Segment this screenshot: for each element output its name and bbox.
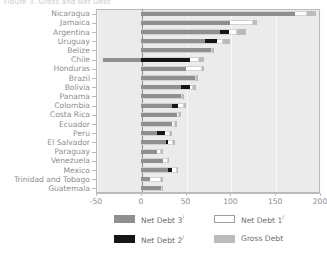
category-label-costa-rica: Costa Rica [50,110,90,119]
bar-net3-colombia [141,104,172,108]
x-axis-tick [320,193,321,196]
gridline [97,10,98,192]
legend-item-net3[interactable]: Net Debt 3/ [114,214,184,225]
gridline [231,10,232,192]
category-label-jamaica: Jamaica [60,18,90,27]
category-tick [92,124,96,125]
legend-superscript-net3: / [182,214,184,220]
category-label-chile: Chile [71,55,90,64]
category-tick [92,152,96,153]
category-tick [92,179,96,180]
category-tick [92,188,96,189]
legend-item-net2[interactable]: Net Debt 2/ [114,234,184,245]
category-label-colombia: Colombia [54,101,90,110]
category-tick [92,69,96,70]
category-tick [92,78,96,79]
category-tick [92,41,96,42]
bar-net3-brazil [141,76,195,80]
bar-net3-panama [141,94,181,98]
category-label-trinidad-and-tobago: Trinidad and Tobago [14,175,90,184]
legend-item-net1[interactable]: Net Debt 1/ [214,214,284,225]
bar-net3-uruguay [141,39,206,43]
category-tick [92,133,96,134]
category-label-ecuador: Ecuador [59,120,90,129]
category-label-brazil: Brazil [69,74,90,83]
legend-superscript-net1: / [282,214,284,220]
category-tick [92,87,96,88]
legend-swatch-net2-icon [114,235,135,243]
legend-label-gross: Gross Debt [241,234,283,243]
bar-net3-bolivia [141,85,181,89]
x-axis-tick [96,193,97,196]
plot-area [96,9,320,193]
bar-net3-jamaica [141,21,231,25]
zero-line [142,10,143,192]
bar-net3-chile [103,58,141,62]
bar-net3-paraguay [141,150,157,154]
category-tick [92,115,96,116]
category-label-peru: Peru [73,129,90,138]
x-axis-label-200: 200 [313,197,327,206]
x-axis-label-0: 0 [138,197,143,206]
legend-label-net2: Net Debt 2/ [141,234,184,245]
legend-label-net1: Net Debt 1/ [241,214,284,225]
category-tick [92,23,96,24]
bar-net3-mexico [141,168,168,172]
legend-item-gross[interactable]: Gross Debt [214,234,283,243]
chart-title-fragment: Figure 3. Gross and Net Debt [4,0,111,4]
bar-net3-el-salvador [141,140,166,144]
legend-swatch-gross-icon [214,235,235,243]
bar-net3-costa-rica [141,113,177,117]
x-axis-tick [141,193,142,196]
category-tick [92,32,96,33]
category-label-uruguay: Uruguay [58,37,90,46]
bar-net3-nicaragua [141,12,295,16]
category-label-honduras: Honduras [53,64,90,73]
category-tick [92,14,96,15]
category-label-bolivia: Bolivia [65,83,90,92]
legend-swatch-net3-icon [114,215,135,223]
category-label-el-salvador: El Salvador [47,138,90,147]
category-axis-labels: NicaraguaJamaicaArgentinaUruguayBelizeCh… [0,9,93,193]
category-tick [92,50,96,51]
gridline [276,10,277,192]
bar-net3-honduras [141,67,186,71]
x-axis-tick [230,193,231,196]
category-label-panama: Panama [60,92,90,101]
legend-superscript-net2: / [182,234,184,240]
x-axis-label-50: 50 [181,197,191,206]
bar-net3-guatemala [141,186,161,190]
gridline [321,10,322,192]
category-label-belize: Belize [67,46,90,55]
x-axis-tick [186,193,187,196]
category-tick [92,161,96,162]
category-tick [92,170,96,171]
category-label-mexico: Mexico [63,166,90,175]
category-label-nicaragua: Nicaragua [51,9,90,18]
bar-net3-argentina [141,30,220,34]
category-tick [92,60,96,61]
bar-net3-venezuela [141,159,163,163]
category-tick [92,96,96,97]
x-axis-tick [275,193,276,196]
bar-net3-belize [141,48,211,52]
bar-net3-ecuador [141,122,172,126]
category-tick [92,142,96,143]
chart-legend: Net Debt 3/Net Debt 1/Net Debt 2/Gross D… [96,212,320,252]
x-axis-label-150: 150 [268,197,283,206]
bar-net2-chile [141,58,190,62]
x-axis-line [96,193,320,194]
category-label-argentina: Argentina [53,28,90,37]
category-tick [92,106,96,107]
category-label-venezuela: Venezuela [51,156,90,165]
category-label-paraguay: Paraguay [55,147,90,156]
x-axis-label-100: 100 [223,197,238,206]
gridline [187,10,188,192]
bar-net3-trinidad-and-tobago [141,177,150,181]
bar-net3-peru [141,131,157,135]
legend-label-net3: Net Debt 3/ [141,214,184,225]
legend-swatch-net1-icon [214,215,235,223]
category-label-guatemala: Guatemala [48,184,90,193]
x-axis-label-neg50: -50 [90,197,102,206]
